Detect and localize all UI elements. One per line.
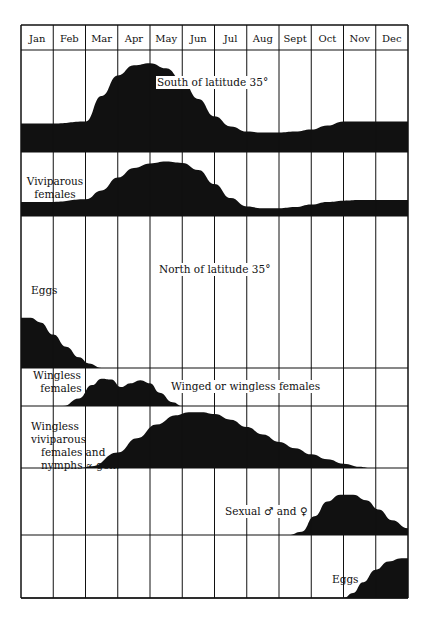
wv-line2: females and [31,446,105,458]
wingless-viviparous-label: Wingless viviparous females and nymphs ∝… [30,420,137,472]
sexual-label: Sexual ♂ and ♀ [224,505,309,518]
north-region-label: North of latitude 35° [158,263,271,276]
month-header-sept: Sept [279,32,311,46]
nymphs-label: Nymphs [28,123,74,136]
wingless-line1: Wingless [33,369,81,381]
month-header-oct: Oct [311,32,343,46]
month-header-jul: Jul [215,32,247,46]
month-header-nov: Nov [344,32,376,46]
wingless-females-label: Wingless females [28,369,86,395]
month-header-jun: Jun [182,32,214,46]
viviparous-line2: females [34,188,75,200]
wingless-line2: females [32,382,81,394]
month-header-feb: Feb [53,32,85,46]
wv-line3: nymphs ∝ gen. [31,459,119,471]
phenology-chart [0,0,430,617]
month-header-may: May [150,32,182,46]
month-header-dec: Dec [376,32,408,46]
month-header-mar: Mar [86,32,118,46]
wv-line1: Wingless viviparous [31,420,86,445]
month-header-aug: Aug [247,32,279,46]
month-header-jan: Jan [21,32,53,46]
viviparous-line1: Viviparous [27,175,84,187]
south-region-label: South of latitude 35° [156,76,269,89]
eggs-early-label: Eggs [30,284,59,297]
viviparous-females-label: Viviparous females [24,175,86,201]
month-header-apr: Apr [118,32,150,46]
eggs-late-label: Eggs [331,573,360,586]
winged-or-wingless-label: Winged or wingless females [170,380,321,393]
